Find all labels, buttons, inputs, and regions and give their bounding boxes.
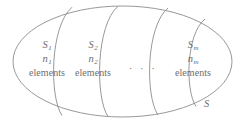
subset-2-count: n2 xyxy=(62,52,124,66)
outer-set-label: S xyxy=(204,98,209,109)
subset-cell-m: Sm nm elements xyxy=(160,38,226,79)
subset-m-unit-label: elements xyxy=(160,66,226,79)
subset-2-unit-label: elements xyxy=(62,66,124,79)
subset-2-symbol: S2 xyxy=(62,38,124,52)
ellipsis-cell: · · · xyxy=(122,62,164,74)
set-partition-figure: S1 n1 elements S2 n2 elements · · · Sm n… xyxy=(0,0,245,126)
subset-m-count: nm xyxy=(160,52,226,66)
subset-cell-2: S2 n2 elements xyxy=(62,38,124,79)
subset-m-symbol: Sm xyxy=(160,38,226,52)
